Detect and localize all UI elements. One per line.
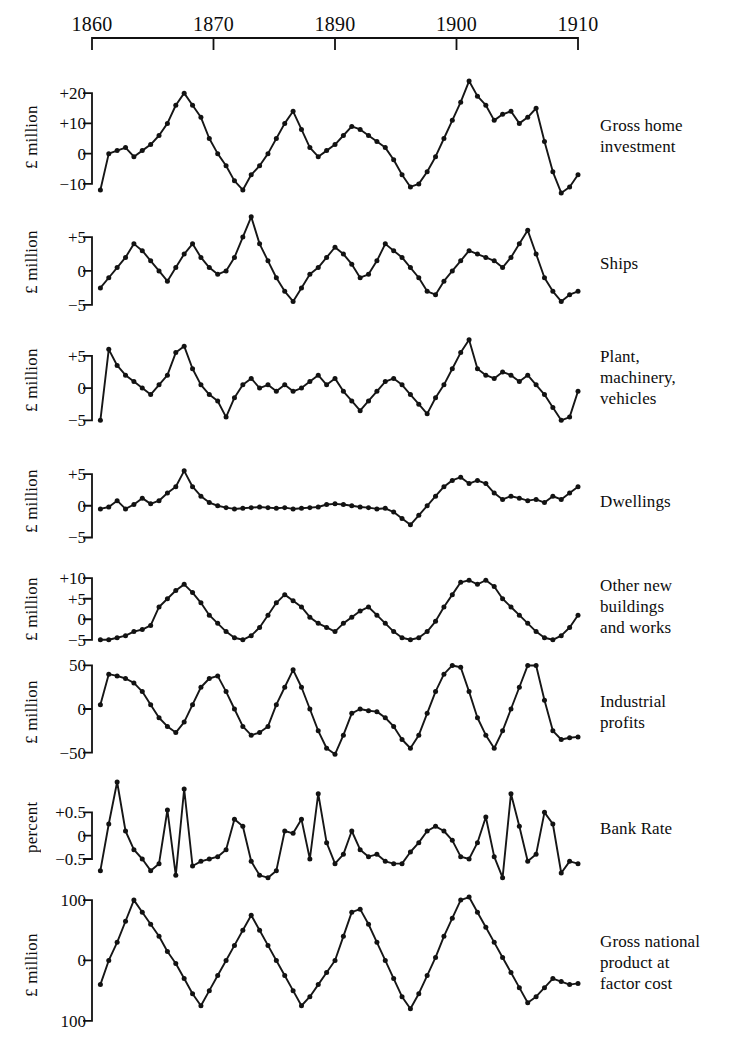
data-point <box>240 637 245 642</box>
data-point <box>400 994 405 999</box>
data-point <box>215 854 220 859</box>
data-point <box>307 505 312 510</box>
data-point <box>198 859 203 864</box>
data-point <box>408 850 413 855</box>
data-point <box>282 121 287 126</box>
data-point <box>265 382 270 387</box>
data-point <box>232 506 237 511</box>
data-point <box>500 875 505 880</box>
data-point <box>190 590 195 595</box>
data-point <box>483 255 488 260</box>
data-point <box>433 292 438 297</box>
data-point <box>408 1006 413 1011</box>
data-point <box>307 272 312 277</box>
data-point <box>383 621 388 626</box>
data-point <box>316 505 321 510</box>
data-point <box>106 275 111 280</box>
data-point <box>274 275 279 280</box>
data-point <box>374 139 379 144</box>
data-point <box>500 112 505 117</box>
data-point <box>400 737 405 742</box>
data-point <box>467 481 472 486</box>
data-point <box>324 502 329 507</box>
data-point <box>408 637 413 642</box>
data-point <box>207 392 212 397</box>
data-point <box>190 241 195 246</box>
data-point <box>207 676 212 681</box>
data-point <box>441 604 446 609</box>
data-point <box>400 861 405 866</box>
data-point <box>307 145 312 150</box>
data-point <box>517 241 522 246</box>
data-point <box>215 673 220 678</box>
data-point <box>257 873 262 878</box>
data-point <box>123 919 128 924</box>
data-point <box>475 94 480 99</box>
data-point <box>433 494 438 499</box>
data-point <box>232 395 237 400</box>
data-point <box>500 596 505 601</box>
data-point <box>123 145 128 150</box>
data-point <box>508 109 513 114</box>
data-point <box>257 928 262 933</box>
data-point <box>182 720 187 725</box>
data-point <box>299 817 304 822</box>
data-point <box>508 791 513 796</box>
data-point <box>400 382 405 387</box>
data-point <box>333 245 338 250</box>
data-point <box>140 496 145 501</box>
data-point <box>307 994 312 999</box>
data-point <box>391 629 396 634</box>
data-point <box>358 505 363 510</box>
data-point <box>182 787 187 792</box>
series-label-gross-national-product-at-factor-cost: Gross national product at factor cost <box>600 931 700 994</box>
data-point <box>207 265 212 270</box>
data-point <box>458 665 463 670</box>
data-point <box>517 379 522 384</box>
data-point <box>265 943 270 948</box>
data-point <box>182 252 187 257</box>
data-point <box>391 510 396 515</box>
data-point <box>173 730 178 735</box>
data-point <box>374 506 379 511</box>
data-point <box>249 859 254 864</box>
data-point <box>483 815 488 820</box>
data-point <box>123 829 128 834</box>
data-point <box>517 121 522 126</box>
data-point <box>383 506 388 511</box>
data-point <box>307 379 312 384</box>
data-point <box>215 503 220 508</box>
data-point <box>190 484 195 489</box>
data-point <box>215 151 220 156</box>
data-point <box>249 376 254 381</box>
data-point <box>358 847 363 852</box>
data-point <box>274 958 279 963</box>
data-point <box>383 715 388 720</box>
data-point <box>173 265 178 270</box>
data-point <box>550 405 555 410</box>
data-point <box>475 715 480 720</box>
data-point <box>165 373 170 378</box>
data-point <box>349 829 354 834</box>
data-point <box>165 724 170 729</box>
data-point <box>316 265 321 270</box>
data-point <box>383 241 388 246</box>
data-point <box>215 973 220 978</box>
data-point <box>458 100 463 105</box>
data-point <box>358 707 363 712</box>
data-point <box>492 491 497 496</box>
data-point <box>316 728 321 733</box>
data-point <box>324 970 329 975</box>
data-point <box>383 859 388 864</box>
data-point <box>450 478 455 483</box>
data-point <box>500 265 505 270</box>
year-tick-label-3: 1900 <box>436 14 477 34</box>
data-point <box>576 861 581 866</box>
data-point <box>500 369 505 374</box>
data-point <box>249 633 254 638</box>
series-label-bank-rate: Bank Rate <box>600 818 672 839</box>
data-point <box>341 621 346 626</box>
data-point <box>383 958 388 963</box>
data-point <box>274 506 279 511</box>
data-point <box>291 389 296 394</box>
